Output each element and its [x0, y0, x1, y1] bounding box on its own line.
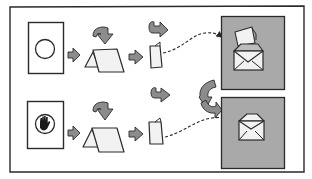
circle-icon	[36, 40, 55, 59]
envelope-icon	[234, 44, 263, 70]
folded-card	[150, 42, 162, 68]
envelope-panel	[222, 17, 285, 90]
card-circle	[29, 23, 64, 74]
open-envelope-icon	[239, 114, 264, 140]
envelope-panel	[222, 98, 285, 169]
card-hand	[28, 102, 64, 149]
diagram-canvas	[0, 0, 312, 179]
folded-card	[149, 118, 163, 144]
